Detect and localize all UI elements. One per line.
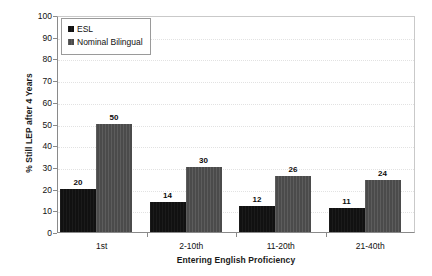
bar-group-2-10th: 14 30 bbox=[148, 17, 238, 232]
bar-value-esl-2-10th: 14 bbox=[148, 191, 188, 200]
y-tick-label-50: 50 bbox=[0, 120, 52, 130]
bar-nominal-bilingual-11-20th[interactable] bbox=[275, 176, 311, 232]
y-tick-label-60: 60 bbox=[0, 98, 52, 108]
bar-value-nominal-bilingual-2-10th: 30 bbox=[184, 156, 224, 165]
legend-item-esl: ESL bbox=[68, 23, 145, 35]
bar-value-nominal-bilingual-1st: 50 bbox=[94, 113, 134, 122]
legend-label-nominal-bilingual: Nominal Bilingual bbox=[77, 37, 143, 47]
bar-group-11-20th: 12 26 bbox=[237, 17, 327, 232]
bar-esl-11-20th[interactable] bbox=[239, 206, 275, 232]
x-tick-label-21-40th: 21-40th bbox=[325, 241, 415, 251]
x-tick-mark-3 bbox=[326, 233, 327, 237]
bar-esl-21-40th[interactable] bbox=[329, 208, 365, 232]
legend-item-nominal-bilingual: Nominal Bilingual bbox=[68, 36, 145, 48]
y-tick-label-30: 30 bbox=[0, 163, 52, 173]
x-tick-label-1st: 1st bbox=[57, 241, 147, 251]
x-tick-mark-2 bbox=[236, 233, 237, 237]
legend: ESL Nominal Bilingual bbox=[61, 18, 151, 55]
x-tick-label-11-20th: 11-20th bbox=[236, 241, 326, 251]
bar-chart: % Still LEP after 4 Years 100 90 80 70 6… bbox=[0, 0, 432, 276]
bar-nominal-bilingual-2-10th[interactable] bbox=[186, 167, 222, 232]
y-tick-label-80: 80 bbox=[0, 54, 52, 64]
legend-swatch-nominal-bilingual-icon bbox=[68, 39, 74, 45]
bar-nominal-bilingual-1st[interactable] bbox=[96, 124, 132, 233]
x-axis-title: Entering English Proficiency bbox=[57, 255, 415, 265]
legend-swatch-esl-icon bbox=[68, 26, 74, 32]
x-tick-mark-1 bbox=[147, 233, 148, 237]
y-tick-label-70: 70 bbox=[0, 76, 52, 86]
y-tick-label-100: 100 bbox=[0, 11, 52, 21]
bar-nominal-bilingual-21-40th[interactable] bbox=[365, 180, 401, 232]
plot-area: 20 50 14 30 12 26 11 24 ESL bbox=[57, 16, 415, 233]
bar-value-esl-21-40th: 11 bbox=[327, 197, 367, 206]
y-tick-label-0: 0 bbox=[0, 228, 52, 238]
y-tick-label-90: 90 bbox=[0, 33, 52, 43]
bar-esl-2-10th[interactable] bbox=[150, 202, 186, 232]
bar-value-esl-11-20th: 12 bbox=[237, 195, 277, 204]
bar-esl-1st[interactable] bbox=[60, 189, 96, 232]
y-tick-label-20: 20 bbox=[0, 185, 52, 195]
bar-group-21-40th: 11 24 bbox=[327, 17, 417, 232]
y-tick-label-40: 40 bbox=[0, 141, 52, 151]
x-tick-label-2-10th: 2-10th bbox=[146, 241, 236, 251]
bar-value-nominal-bilingual-11-20th: 26 bbox=[273, 165, 313, 174]
bar-value-esl-1st: 20 bbox=[58, 178, 98, 187]
y-tick-label-10: 10 bbox=[0, 206, 52, 216]
bar-value-nominal-bilingual-21-40th: 24 bbox=[363, 169, 403, 178]
legend-label-esl: ESL bbox=[77, 24, 93, 34]
y-tick-mark-0 bbox=[53, 233, 57, 234]
